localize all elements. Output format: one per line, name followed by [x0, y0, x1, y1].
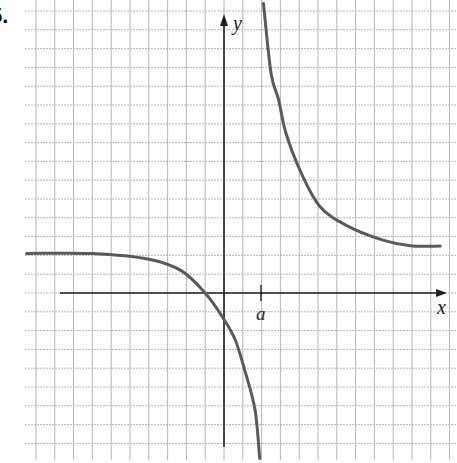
a-label: a — [256, 303, 266, 325]
y-axis-arrow-icon — [220, 14, 228, 26]
grid-lines — [25, 0, 457, 460]
y-axis-label: y — [233, 12, 242, 35]
x-axis-label: x — [437, 296, 446, 319]
curves — [27, 4, 441, 459]
graph-figure — [0, 0, 457, 463]
axes — [60, 14, 447, 447]
curve-right-branch — [264, 4, 441, 247]
